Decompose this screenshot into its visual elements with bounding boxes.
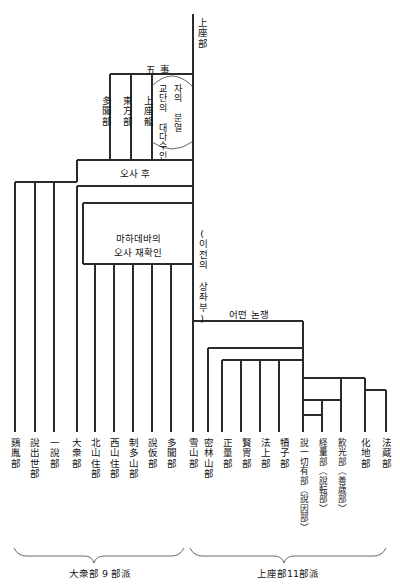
leaf-label-16: 說一切有部（說因部） xyxy=(298,438,307,532)
leaf-label-7: 制多山部 xyxy=(128,438,138,480)
leaf-label-10: 雪山部 xyxy=(188,438,198,469)
leaf-label-13: 賢冑部 xyxy=(241,438,251,469)
leaf-label-15: 犢子部 xyxy=(279,438,289,469)
brace-right xyxy=(190,548,386,563)
leaf-label-8: 說仮部 xyxy=(147,438,157,469)
leaf-label-18: 飲光部（善歳部） xyxy=(336,438,345,513)
leaf-label-5: 北山住部 xyxy=(90,438,100,480)
node-label-mahadeva-line2: 오사 재확인 xyxy=(84,245,192,259)
summary-label-sthavira: 上座部11部派 xyxy=(190,566,386,580)
leaf-label-6: 西山住部 xyxy=(109,438,119,480)
summary-braces xyxy=(14,548,386,563)
branch-label-sangjwaryong: 上座龍 xyxy=(143,96,153,127)
node-label-mahadeva-line1: 마하데바의 xyxy=(84,231,192,245)
root-label-theravada: 上座部 xyxy=(197,18,207,49)
sect-genealogy-diagram: 上座部 (이전의 상좌부) 五 事 자의 분열 교단의 대다수인 多聞部 東方部… xyxy=(0,0,400,586)
leaf-label-20: 法蔵部 xyxy=(381,438,391,469)
leaf-label-12: 正量部 xyxy=(222,438,232,469)
leaf-label-9: 多聞部 xyxy=(166,438,176,469)
branch-label-dongbang: 東方部 xyxy=(122,96,132,127)
brace-label-line-2: 교단의 대다수인 xyxy=(157,84,166,160)
leaf-label-2: 說出世部 xyxy=(29,438,39,480)
leaf-label-3: 一說部 xyxy=(49,438,59,469)
summary-label-mahasamghika: 大衆部 9 部派 xyxy=(14,566,186,580)
branch-label-dabun: 多聞部 xyxy=(101,96,111,127)
leaf-label-14: 法上部 xyxy=(260,438,270,469)
leaf-label-4: 大衆部 xyxy=(71,438,81,469)
leaf-label-1: 鷄胤部 xyxy=(10,438,20,469)
leaf-label-17: 経量部（說転部） xyxy=(317,438,326,513)
brace-left xyxy=(14,548,184,563)
node-label-some-dispute: 어떤 논쟁 xyxy=(196,307,302,321)
label-five-points: 五 事 xyxy=(138,62,178,76)
brace-label-line-1: 자의 분열 xyxy=(172,84,181,132)
leaf-label-11: 密林山部 xyxy=(203,438,213,480)
leaf-label-19: 化地部 xyxy=(360,438,370,469)
node-label-after-five-points: 오사 후 xyxy=(78,166,192,180)
